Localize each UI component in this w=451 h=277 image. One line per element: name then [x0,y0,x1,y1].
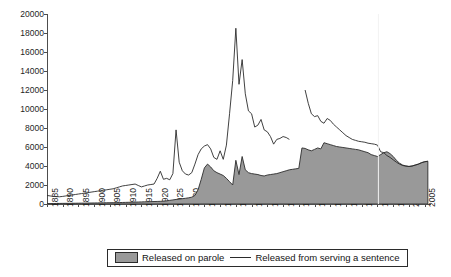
x-axis-tick-mark [126,204,127,207]
x-axis-tick-mark [47,204,48,207]
chart-plot-svg [47,14,431,204]
x-axis-tick-mark [78,204,79,207]
y-axis-tick-mark [44,33,47,34]
data-gap-marker [378,14,379,204]
y-axis-tick-mark [44,71,47,72]
x-axis-tick-mark [110,204,111,207]
y-axis-tick-mark [44,185,47,186]
area-swatch-icon [115,252,138,263]
y-axis-tick-mark [44,166,47,167]
x-axis-tick-mark [362,204,363,207]
x-axis-tick-mark [252,204,253,207]
y-axis-tick-mark [44,147,47,148]
x-axis-tick-mark [425,204,426,207]
y-axis-tick-mark [44,128,47,129]
line-swatch-icon [230,257,251,258]
y-axis-tick-mark [44,204,47,205]
x-axis-tick-mark [393,204,394,207]
x-axis-tick-mark [299,204,300,207]
y-axis-tick-mark [44,90,47,91]
chart-legend: Released on parole Released from serving… [107,249,408,267]
legend-label-released-on-parole: Released on parole [142,253,224,263]
chart-container: 0200040006000800010000120001400016000180… [0,0,451,277]
x-axis-tick-mark [141,204,142,207]
series-line-released-from-serving-a-sentence [47,28,289,197]
legend-item-released-from-serving-a-sentence: Released from serving a sentence [230,253,399,263]
x-axis-tick-mark [173,204,174,207]
y-axis-tick-mark [44,109,47,110]
x-axis-tick-mark [409,204,410,207]
y-axis-tick-mark [44,14,47,15]
y-axis-tick-mark [44,52,47,53]
x-axis-tick-mark [236,204,237,207]
x-axis-tick-mark [157,204,158,207]
x-axis-tick-mark [204,204,205,207]
legend-label-released-from-serving-a-sentence: Released from serving a sentence [255,253,399,263]
series-area-released-on-parole [47,143,428,204]
x-axis-tick-mark [346,204,347,207]
x-axis-tick-mark [189,204,190,207]
x-axis-tick-mark [377,204,378,207]
legend-item-released-on-parole: Released on parole [115,252,224,263]
x-axis-tick-mark [330,204,331,207]
x-axis-tick-mark [267,204,268,207]
plot-area [47,14,431,204]
x-axis-tick-mark [315,204,316,207]
x-axis-tick-mark [94,204,95,207]
x-axis-tick-mark [63,204,64,207]
x-axis-tick-mark [283,204,284,207]
x-axis-tick-mark [220,204,221,207]
